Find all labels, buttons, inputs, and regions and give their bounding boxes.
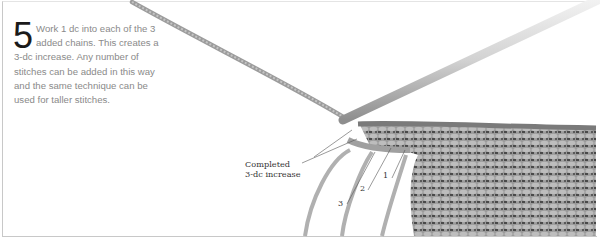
- stitch-label-3: 3: [338, 199, 343, 208]
- crochet-hook: [343, 0, 598, 120]
- stitch-label-1: 1: [383, 171, 388, 180]
- callout-line-1: Completed: [245, 159, 315, 169]
- callout-line-2: 3-dc increase: [245, 169, 315, 179]
- stitch-label-2: 2: [360, 184, 365, 193]
- crochet-fabric: [360, 125, 596, 236]
- callout-label: Completed 3-dc increase: [245, 159, 315, 179]
- crochet-illustration: [0, 0, 600, 241]
